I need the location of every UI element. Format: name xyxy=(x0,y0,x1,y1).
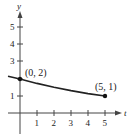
y-tick-label-5: 5 xyxy=(10,22,15,32)
exponential-decay-chart: y t 1 3 4 5 1 2 3 4 5 (0, 2) (5, 1) xyxy=(0,0,130,138)
y-tick-label-3: 3 xyxy=(10,56,15,66)
start-point-marker xyxy=(18,77,22,81)
start-point-label: (0, 2) xyxy=(25,67,47,79)
decay-curve xyxy=(8,76,105,96)
y-axis-label: y xyxy=(16,1,21,11)
y-tick-label-4: 4 xyxy=(10,39,15,49)
x-tick-label-5: 5 xyxy=(103,118,108,128)
x-tick-label-1: 1 xyxy=(35,118,40,128)
x-tick-label-4: 4 xyxy=(86,118,91,128)
x-axis-label: t xyxy=(124,108,127,118)
end-point-label: (5, 1) xyxy=(95,81,117,93)
x-tick-label-3: 3 xyxy=(69,118,74,128)
y-axis-arrow-icon xyxy=(18,11,23,18)
x-axis-arrow-icon xyxy=(115,111,122,116)
x-tick-label-2: 2 xyxy=(52,118,57,128)
y-tick-label-1: 1 xyxy=(10,91,15,101)
end-point-marker xyxy=(103,94,107,98)
